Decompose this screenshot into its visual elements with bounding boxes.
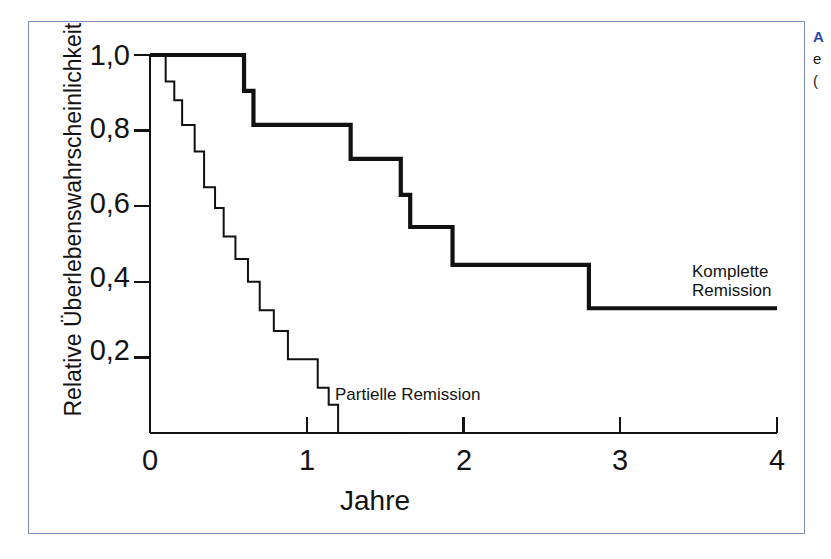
series-curve-partielle-remission — [150, 55, 407, 433]
series-layer — [150, 55, 777, 433]
x-tick-label-3: 3 — [594, 446, 646, 475]
x-tick-label-4: 4 — [751, 446, 803, 475]
x-tick-label-2: 2 — [438, 446, 490, 475]
series-label-komplette-line1: Komplette — [692, 262, 771, 281]
x-tick-label-1: 1 — [281, 446, 333, 475]
caption-head: A — [813, 26, 831, 48]
x-tick-label-0: 0 — [124, 446, 176, 475]
series-label-komplette-line2: Remission — [692, 281, 771, 300]
survival-chart: 1,0 0,8 0,6 0,4 0,2 0 1 2 3 4 Relative Ü… — [0, 0, 831, 559]
series-curve-komplette-remission — [150, 55, 777, 308]
caption-line-3: ( — [813, 70, 831, 92]
series-label-partielle-remission: Partielle Remission — [335, 385, 481, 404]
figure-page: 1,0 0,8 0,6 0,4 0,2 0 1 2 3 4 Relative Ü… — [0, 0, 831, 559]
caption-line-2: e — [813, 48, 831, 70]
series-label-komplette-remission: Komplette Remission — [692, 262, 771, 300]
caption-fragment: A e ( — [813, 26, 831, 91]
axis-layer — [134, 54, 777, 433]
y-axis-title: Relative Überlebenswahrscheinlichkeit — [62, 27, 85, 417]
x-axis-title: Jahre — [340, 487, 410, 515]
